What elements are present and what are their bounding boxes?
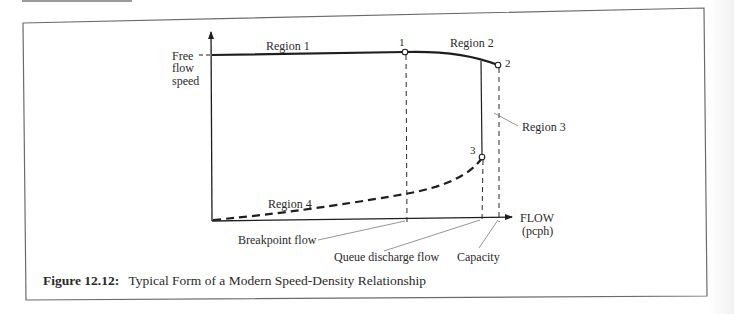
speed-flow-diagram: Free flow speed Region 1 1 Region 2 2 Re…: [0, 0, 734, 314]
point-2-label: 2: [505, 57, 511, 69]
point-2-marker: [495, 62, 501, 68]
capacity-label: Capacity: [457, 250, 500, 264]
breakpoint-flow-leader: [318, 221, 405, 240]
x-axis: [212, 217, 512, 221]
point-1-marker: [402, 49, 408, 55]
region-4-curve: [213, 158, 482, 220]
region-1-label: Region 1: [266, 39, 310, 53]
x-label-unit: (pcph): [522, 224, 553, 238]
queue-discharge-leader: [384, 220, 480, 251]
breakpoint-dropline: [406, 55, 407, 223]
page-top-rule: [22, 0, 132, 2]
y-label-speed: speed: [172, 74, 199, 88]
figure-title: Typical Form of a Modern Speed-Density R…: [128, 273, 426, 288]
page-edge-shadow: [708, 0, 734, 314]
region-3-line: [481, 61, 482, 155]
region-3-leader: [494, 113, 518, 126]
figure-caption: Figure 12.12: Typical Form of a Modern S…: [43, 273, 426, 288]
point-1-label: 1: [399, 36, 405, 48]
region-4-label: Region 4: [268, 197, 312, 211]
capacity-leader: [479, 220, 498, 248]
y-axis: [211, 32, 212, 221]
y-label-flow: flow: [172, 61, 194, 75]
x-label-flow: FLOW: [520, 211, 555, 225]
region-1-2-curve: [212, 52, 498, 65]
point-3-marker: [479, 154, 485, 160]
region-2-label: Region 2: [450, 36, 494, 50]
figure-page: Free flow speed Region 1 1 Region 2 2 Re…: [0, 0, 734, 314]
breakpoint-flow-label: Breakpoint flow: [238, 233, 317, 247]
queue-discharge-flow-label: Queue discharge flow: [334, 250, 439, 264]
point-3-label: 3: [470, 144, 476, 156]
figure-number: Figure 12.12:: [43, 273, 119, 288]
region-3-label: Region 3: [522, 120, 566, 134]
queue-discharge-dropline: [482, 160, 483, 222]
